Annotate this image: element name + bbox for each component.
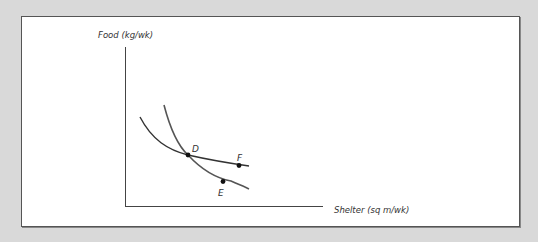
steeper-indifference-curve [164, 105, 249, 189]
point-e-label: E [218, 188, 224, 198]
point-d-marker [186, 153, 191, 158]
point-e-marker [221, 179, 226, 184]
flatter-indifference-curve [140, 117, 249, 166]
y-axis-label: Food (kg/wk) [98, 30, 153, 40]
point-f-marker [237, 163, 242, 168]
diagram-canvas: Food (kg/wk) Shelter (sq m/wk) D F E [0, 0, 538, 242]
x-axis-label: Shelter (sq m/wk) [334, 205, 409, 215]
point-d-label: D [192, 144, 199, 154]
point-f-label: F [237, 153, 243, 163]
